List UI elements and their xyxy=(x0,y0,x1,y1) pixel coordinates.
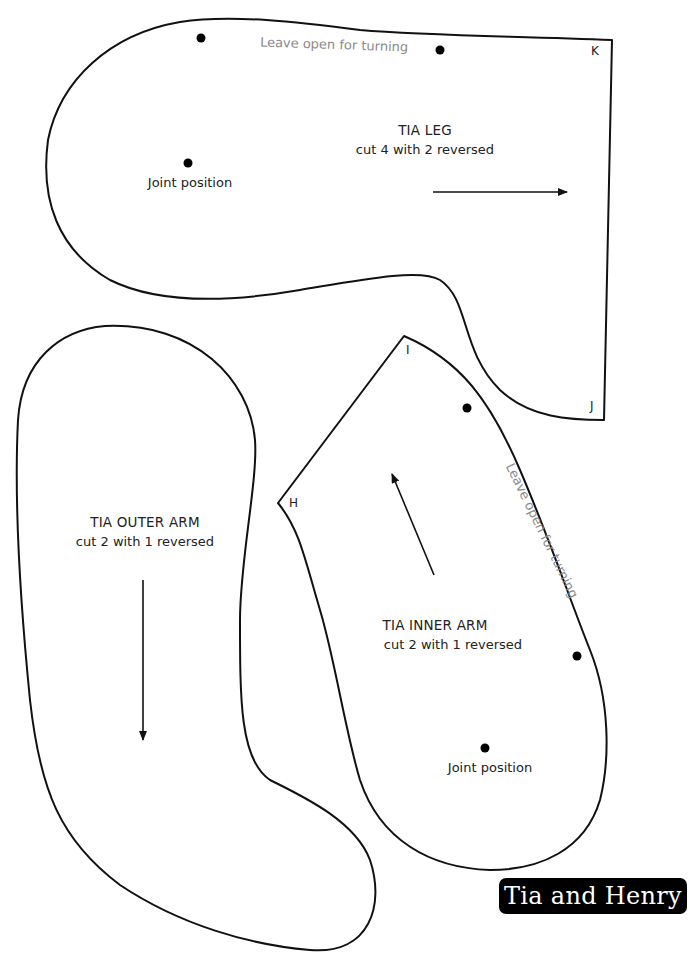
inner-arm-grainline-arrow-icon xyxy=(392,474,434,575)
marker-dot xyxy=(436,46,445,55)
inner-arm-joint-label: Joint position xyxy=(440,759,540,776)
marker-dot xyxy=(573,652,582,661)
leg-title: TIA LEG xyxy=(360,122,490,139)
joint-dot xyxy=(184,159,193,168)
corner-label-k: K xyxy=(591,44,599,58)
marker-dot xyxy=(197,34,206,43)
brand-badge: Tia and Henry xyxy=(499,878,687,914)
corner-label-i: I xyxy=(406,343,410,357)
outer-arm-piece-outline xyxy=(17,326,376,951)
inner-arm-instruction: cut 2 with 1 reversed xyxy=(368,636,538,653)
corner-label-j: J xyxy=(590,399,594,413)
outer-arm-title: TIA OUTER ARM xyxy=(70,514,220,531)
marker-dot xyxy=(463,404,472,413)
corner-label-h: H xyxy=(289,496,298,510)
outer-arm-instruction: cut 2 with 1 reversed xyxy=(60,533,230,550)
joint-dot xyxy=(481,744,490,753)
leg-instruction: cut 4 with 2 reversed xyxy=(340,141,510,158)
inner-arm-title: TIA INNER ARM xyxy=(370,617,500,634)
leg-joint-label: Joint position xyxy=(140,174,240,191)
leg-piece-outline xyxy=(46,19,612,420)
